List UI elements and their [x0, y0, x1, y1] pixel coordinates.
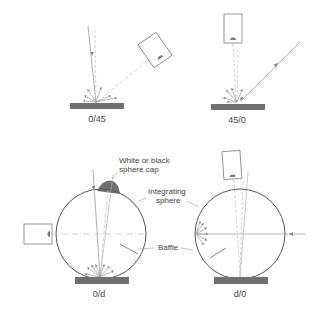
- label-0-d: 0/d: [93, 289, 106, 299]
- arrow-icon: [274, 63, 279, 68]
- annotation-baffle: Baffle: [158, 243, 179, 252]
- label-0-45: 0/45: [88, 114, 106, 124]
- label-45-0: 45/0: [228, 115, 246, 125]
- leader-line: [187, 201, 199, 207]
- panel-0-45: 0/45: [70, 26, 172, 124]
- detector-box: [224, 14, 242, 43]
- leader-line: [138, 198, 146, 201]
- leader-line: [113, 172, 117, 179]
- annotation-sphere-cap-line1: White or black: [119, 156, 171, 165]
- scatter-rays: [196, 222, 207, 244]
- incident-beam: [241, 42, 300, 101]
- panel-d-0: d/0: [195, 150, 305, 299]
- viewing-line: [234, 180, 240, 277]
- baffle: [210, 248, 226, 258]
- geometry-diagram: 0/45 45/0: [0, 0, 321, 324]
- detector-box: [24, 224, 52, 244]
- sample-plate: [70, 103, 124, 109]
- annotation-integrating-line2: sphere: [156, 196, 181, 205]
- annotation-sphere-cap-line2: sphere cap: [119, 165, 159, 174]
- baffle: [120, 244, 138, 254]
- annotation-integrating-line1: Integrating: [148, 187, 186, 196]
- leader-line: [181, 248, 193, 250]
- panel-0-d: 0/d: [24, 170, 146, 299]
- normal-line: [237, 50, 238, 102]
- panel-45-0: 45/0: [211, 14, 300, 125]
- normal-line: [240, 172, 248, 277]
- sample-plate: [211, 104, 265, 110]
- arrow-icon: [289, 232, 293, 236]
- viewing-line: [240, 182, 243, 277]
- detector-box: [222, 150, 242, 179]
- sample-plate: [214, 277, 268, 284]
- viewing-line: [97, 60, 148, 102]
- annotations: White or black sphere cap Integrating sp…: [113, 156, 199, 252]
- leader-line: [138, 248, 154, 249]
- specular-line: [100, 190, 108, 277]
- label-d-0: d/0: [234, 289, 247, 299]
- scatter-rays: [224, 89, 242, 102]
- detector-box: [138, 32, 172, 68]
- sample-plate: [75, 277, 129, 284]
